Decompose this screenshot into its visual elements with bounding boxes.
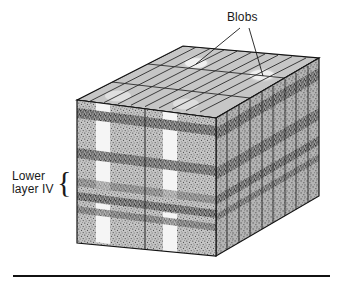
curly-brace-icon: { [57,167,71,197]
block-front-face [77,100,216,256]
block-diagram-illustration [0,0,343,286]
figure-canvas: Blobs Lowerlayer IV { [0,0,343,286]
blobs-label: Blobs [227,11,258,24]
lower-layer-iv-label: Lowerlayer IV [12,170,53,195]
lower-layer-iv-line2: layer IV [12,182,53,196]
